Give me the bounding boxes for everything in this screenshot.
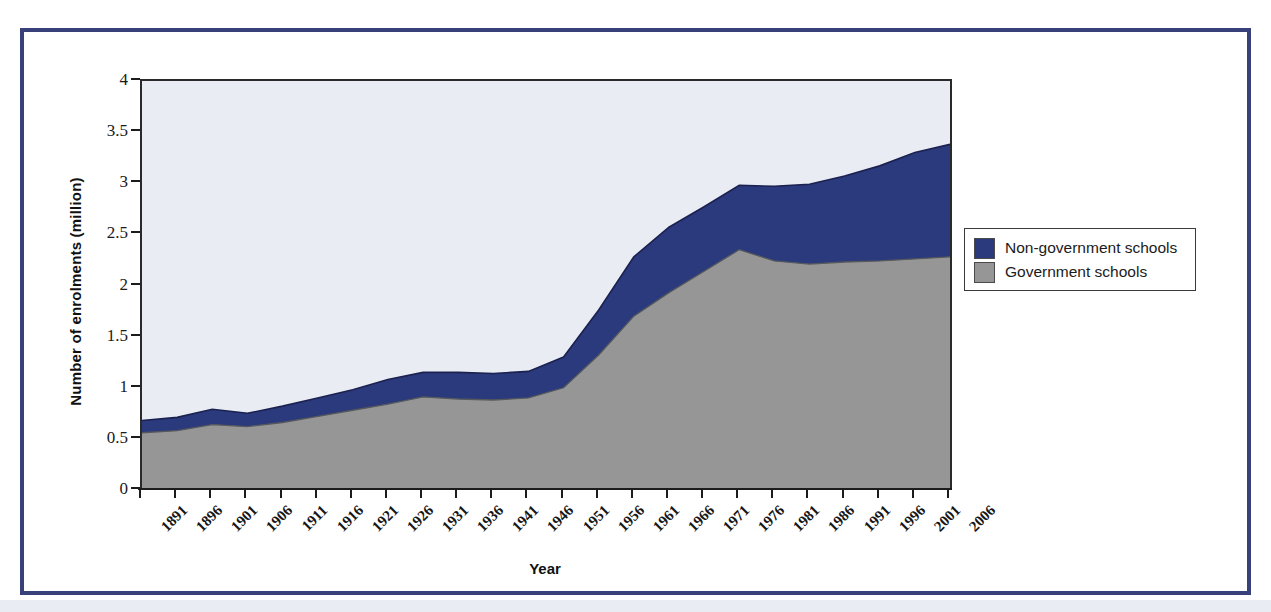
y-axis-tick-mark	[131, 436, 140, 438]
x-axis-tick-label: 1921	[369, 502, 402, 535]
x-axis-tick-mark	[244, 489, 246, 498]
y-axis-tick-mark	[131, 78, 140, 80]
x-axis-tick-mark	[947, 489, 949, 498]
legend-item: Government schools	[974, 260, 1186, 284]
x-axis-tick-label: 1911	[298, 502, 331, 535]
legend-swatch-government-schools	[974, 262, 995, 283]
y-axis-tick-label: 3	[120, 173, 129, 190]
x-axis-tick-label: 1891	[158, 502, 191, 535]
y-axis-tick-label: 0.5	[107, 428, 128, 445]
x-axis-tick-label: 1946	[544, 502, 577, 535]
x-axis-tick-mark	[771, 489, 773, 498]
x-axis-tick-label: 1986	[825, 502, 858, 535]
x-axis-line	[138, 488, 952, 490]
x-axis-tick-mark	[842, 489, 844, 498]
x-axis-tick-mark	[666, 489, 668, 498]
x-axis-tick-label: 1981	[790, 502, 823, 535]
x-axis-tick-mark	[877, 489, 879, 498]
x-axis-tick-mark	[631, 489, 633, 498]
x-axis-tick-label: 1971	[720, 502, 753, 535]
x-axis-tick-mark	[420, 489, 422, 498]
legend-swatch-non-government-schools	[974, 238, 995, 259]
x-axis-tick-label: 1916	[333, 502, 366, 535]
x-axis-tick-mark	[701, 489, 703, 498]
x-axis-tick-mark	[174, 489, 176, 498]
y-axis-tick-label: 3.5	[107, 122, 128, 139]
x-axis-tick-mark	[525, 489, 527, 498]
x-axis-tick-label: 2001	[931, 502, 964, 535]
x-axis-tick-mark	[209, 489, 211, 498]
x-axis-tick-mark	[490, 489, 492, 498]
y-axis-tick-mark	[131, 334, 140, 336]
y-axis-tick-label: 1	[120, 377, 129, 394]
plot-area	[140, 79, 952, 490]
y-axis-tick-labels: 00.511.522.533.54	[80, 32, 128, 599]
x-axis-tick-label: 1906	[263, 502, 296, 535]
y-axis-tick-label: 1.5	[107, 326, 128, 343]
x-axis-tick-mark	[455, 489, 457, 498]
chart-container: Number of enrolments (million) 00.511.52…	[24, 32, 1255, 599]
x-axis-tick-label: 2006	[966, 502, 999, 535]
x-axis-tick-label: 1951	[579, 502, 612, 535]
chart-legend: Non-government schools Government school…	[964, 228, 1196, 291]
x-axis-tick-mark	[280, 489, 282, 498]
y-axis-tick-mark	[131, 283, 140, 285]
x-axis-tick-mark	[385, 489, 387, 498]
x-axis-tick-mark	[315, 489, 317, 498]
x-axis-tick-label: 1961	[650, 502, 683, 535]
x-axis-tick-mark	[350, 489, 352, 498]
x-axis-tick-mark	[912, 489, 914, 498]
y-axis-tick-label: 2	[120, 275, 129, 292]
y-axis-tick-mark	[131, 385, 140, 387]
x-axis-tick-label: 1931	[439, 502, 472, 535]
y-axis-tick-mark	[131, 129, 140, 131]
x-axis-tick-label: 1936	[474, 502, 507, 535]
figure-frame: Number of enrolments (million) 00.511.52…	[20, 28, 1251, 595]
x-axis-tick-label: 1956	[614, 502, 647, 535]
stacked-area-series	[142, 81, 950, 490]
x-axis-tick-label: 1966	[685, 502, 718, 535]
page-background-strip	[0, 600, 1271, 612]
x-axis-tick-label: 1926	[404, 502, 437, 535]
y-axis-tick-mark	[131, 231, 140, 233]
y-axis-tick-label: 4	[120, 71, 129, 88]
x-axis-tick-label: 1941	[509, 502, 542, 535]
x-axis-label: Year	[140, 560, 950, 577]
x-axis-tick-label: 1901	[228, 502, 261, 535]
y-axis-tick-mark	[131, 180, 140, 182]
legend-label: Non-government schools	[1005, 239, 1177, 257]
legend-label: Government schools	[1005, 263, 1147, 281]
x-axis-tick-mark	[736, 489, 738, 498]
x-axis-tick-label: 1996	[896, 502, 929, 535]
x-axis-tick-mark	[561, 489, 563, 498]
x-axis-tick-label: 1976	[755, 502, 788, 535]
legend-item: Non-government schools	[974, 236, 1186, 260]
y-axis-tick-label: 2.5	[107, 224, 128, 241]
y-axis-tick-label: 0	[120, 480, 129, 497]
x-axis-tick-label: 1896	[193, 502, 226, 535]
x-axis-tick-label: 1991	[860, 502, 893, 535]
x-axis-tick-mark	[139, 489, 141, 498]
x-axis-tick-mark	[806, 489, 808, 498]
x-axis-tick-mark	[596, 489, 598, 498]
